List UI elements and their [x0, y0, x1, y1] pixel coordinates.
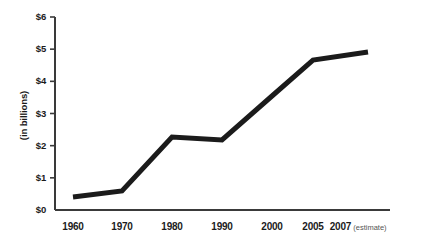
x-tick-label: 2007 (estimate) — [330, 222, 387, 232]
x-tick-label: 1970 — [111, 222, 132, 232]
x-tick-label: 1990 — [211, 222, 232, 232]
estimate-note: (estimate) — [351, 223, 386, 232]
x-tick-label: 1960 — [62, 222, 83, 232]
line-chart: (in billions) $0$1$2$3$4$5$6 19601970198… — [0, 0, 431, 247]
chart-canvas — [0, 0, 431, 247]
x-tick-label-text: 1960 — [62, 221, 83, 232]
x-tick-label-text: 1990 — [211, 221, 232, 232]
axis-group — [50, 17, 390, 210]
x-tick-label-text: 1980 — [161, 221, 182, 232]
x-tick-label-text: 1970 — [111, 221, 132, 232]
x-tick-label-text: 2000 — [261, 221, 282, 232]
data-series-line — [73, 52, 368, 197]
x-tick-label: 1980 — [161, 222, 182, 232]
x-tick-label: 2000 — [261, 222, 282, 232]
x-tick-label-text: 2005 — [302, 221, 323, 232]
x-tick-label-text: 2007 — [330, 221, 351, 232]
x-tick-label: 2005 — [302, 222, 323, 232]
